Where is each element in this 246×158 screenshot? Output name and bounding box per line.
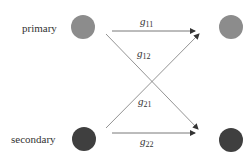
node-primary-transmitter (71, 15, 95, 39)
edge-label-g12: g12 (137, 47, 151, 61)
node-primary-receiver (219, 15, 243, 39)
edge-label-g11: g11 (140, 15, 153, 29)
edge-label-g22: g22 (140, 135, 154, 149)
node-label-primary: primary (22, 22, 57, 34)
node-label-secondary: secondary (11, 133, 56, 145)
edge-label-g21: g21 (138, 95, 152, 109)
channel-gain-diagram: g11 g12 g21 g22 primary secondary (0, 0, 246, 158)
node-secondary-transmitter (72, 127, 96, 151)
node-secondary-receiver (219, 128, 243, 152)
